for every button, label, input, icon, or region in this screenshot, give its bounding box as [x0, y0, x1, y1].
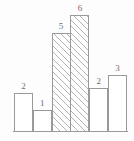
- bar-3: [52, 33, 71, 132]
- bar-1-value-label: 2: [21, 82, 26, 91]
- histogram-chart: 2 1 5 6 2 3: [0, 0, 134, 141]
- bar-6: [108, 75, 127, 132]
- bar-1: [14, 93, 33, 132]
- plot-area: 2 1 5 6 2 3: [0, 0, 134, 141]
- bar-4-value-label: 6: [78, 4, 83, 13]
- bar-4: [70, 15, 89, 132]
- baseline-axis: [13, 131, 128, 132]
- bar-2: [33, 110, 52, 132]
- bar-3-value-label: 5: [59, 22, 64, 31]
- bar-2-value-label: 1: [40, 99, 45, 108]
- bar-6-value-label: 3: [115, 64, 120, 73]
- bar-5: [89, 88, 108, 132]
- bar-5-value-label: 2: [96, 77, 101, 86]
